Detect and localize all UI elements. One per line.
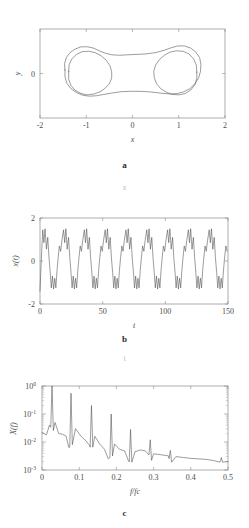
panel-letter-a: a [0,160,249,170]
svg-text:x: x [130,135,135,144]
svg-text:0: 0 [31,70,35,79]
svg-text:1: 1 [177,121,181,130]
panel-b: 050100150-202tx(t) b t [0,196,249,356]
svg-text:x(t): x(t) [11,255,20,267]
panel-b-plot: 050100150-202tx(t) [0,196,249,336]
svg-text:-2: -2 [37,121,44,130]
panel-c: 00.10.20.30.40.510-310-210-1100f/fcX(f) … [0,372,249,528]
svg-text:0: 0 [38,307,42,316]
panel-letter-c: c [0,508,249,518]
ghost-label-t: t [0,354,249,363]
svg-text:t: t [133,321,136,330]
timeseries-curve [40,229,227,291]
svg-text:-1: -1 [83,121,90,130]
panel-a: -2-10120xy x a [0,0,249,180]
orbit-orbit-outer [65,46,201,96]
svg-text:2: 2 [223,121,227,130]
svg-text:0.1: 0.1 [74,473,84,482]
svg-text:10-3: 10-3 [23,465,36,475]
svg-text:50: 50 [99,307,107,316]
svg-text:X(f): X(f) [9,422,18,436]
svg-text:f/fc: f/fc [130,487,141,496]
svg-text:0.2: 0.2 [111,473,121,482]
svg-text:2: 2 [31,214,35,223]
timeseries-chart: 050100150-202tx(t) [0,196,249,336]
svg-text:100: 100 [25,381,36,391]
spectrum-curve [42,386,228,462]
svg-text:y: y [13,71,22,76]
svg-text:0.4: 0.4 [186,473,196,482]
svg-text:-2: -2 [28,300,35,309]
spectrum-chart: 00.10.20.30.40.510-310-210-1100f/fcX(f) [0,372,249,502]
panel-a-plot: -2-10120xy [0,0,249,150]
svg-text:0.3: 0.3 [149,473,159,482]
svg-text:10-1: 10-1 [23,409,36,419]
phase-portrait-chart: -2-10120xy [0,0,249,150]
orbit-orbit-inner-left [69,51,112,95]
svg-text:0: 0 [131,121,135,130]
svg-text:10-2: 10-2 [23,437,36,447]
svg-text:150: 150 [222,307,234,316]
svg-text:0: 0 [31,257,35,266]
panel-c-plot: 00.10.20.30.40.510-310-210-1100f/fcX(f) [0,372,249,502]
panel-letter-b: b [0,334,249,344]
ghost-label-x: x [0,183,249,192]
svg-text:100: 100 [159,307,171,316]
svg-text:0.5: 0.5 [223,473,233,482]
svg-text:0: 0 [40,473,44,482]
